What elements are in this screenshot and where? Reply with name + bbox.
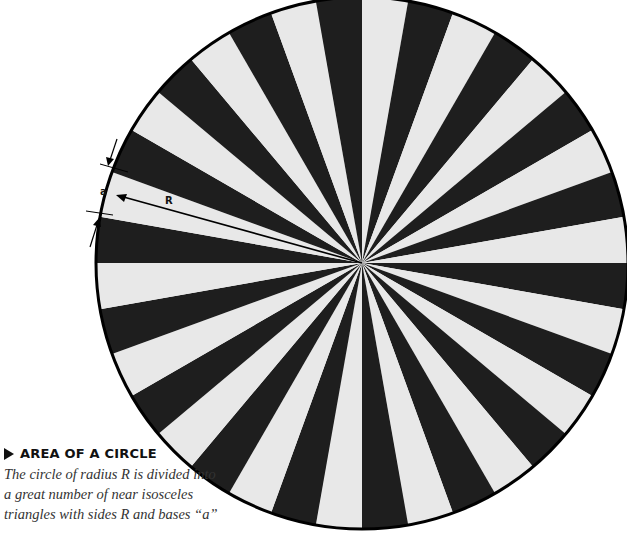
triangle-right-icon: [4, 448, 14, 460]
caption: AREA OF A CIRCLE The circle of radius R …: [4, 446, 264, 524]
base-label: a: [100, 186, 107, 197]
caption-title: AREA OF A CIRCLE: [4, 446, 264, 461]
radius-label: R: [165, 195, 173, 206]
caption-body: The circle of radius R is divided into a…: [4, 464, 264, 524]
caption-line: triangles with sides R and bases “a”: [4, 504, 264, 524]
caption-line: a great number of near isosceles: [4, 484, 264, 504]
caption-title-text: AREA OF A CIRCLE: [20, 446, 157, 461]
caption-line: The circle of radius R is divided into: [4, 464, 264, 484]
